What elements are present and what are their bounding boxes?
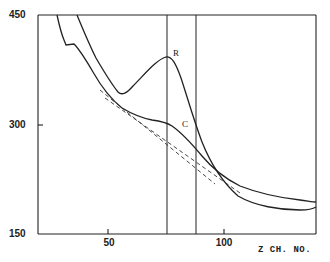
x-axis-title: Z CH. NO.: [258, 245, 311, 255]
y-label-300: 300: [9, 119, 26, 130]
dashed-line-1: [100, 90, 215, 184]
dashed-line-2: [105, 98, 240, 193]
y-label-450: 450: [9, 9, 26, 20]
x-label-100: 100: [216, 237, 233, 248]
curve-r-label: R: [173, 48, 179, 58]
chart-canvas: [0, 0, 330, 262]
y-label-150: 150: [9, 228, 26, 239]
curve-c-label: C: [182, 119, 188, 129]
x-label-50: 50: [103, 237, 114, 248]
curve-c: [57, 15, 316, 202]
